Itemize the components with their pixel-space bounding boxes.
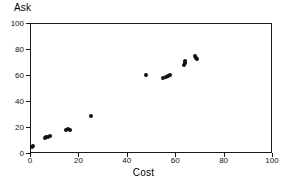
data-point (195, 57, 199, 61)
x-axis-tick-label: 0 (18, 156, 42, 165)
x-axis-title: Cost (0, 167, 287, 179)
data-point (89, 114, 93, 118)
scatter-chart-figure: Ask 020406080100020406080100 Cost (0, 0, 287, 185)
y-axis-tick-label: 100 (2, 19, 24, 28)
y-axis-title: Ask (14, 2, 31, 14)
data-point (144, 73, 148, 77)
x-axis-tick-label: 20 (66, 156, 90, 165)
x-axis-tick-label: 100 (260, 156, 284, 165)
y-axis-tick-label: 60 (2, 71, 24, 80)
data-point (168, 73, 172, 77)
x-axis-tick-label: 60 (163, 156, 187, 165)
plot-area (30, 23, 272, 153)
y-axis-tick-label: 20 (2, 123, 24, 132)
y-axis-tick-label: 80 (2, 45, 24, 54)
y-axis-tick-label: 40 (2, 97, 24, 106)
data-point (31, 144, 35, 148)
data-point (68, 128, 72, 132)
data-point (48, 134, 52, 138)
x-axis-tick-label: 40 (115, 156, 139, 165)
x-axis-tick-label: 80 (212, 156, 236, 165)
